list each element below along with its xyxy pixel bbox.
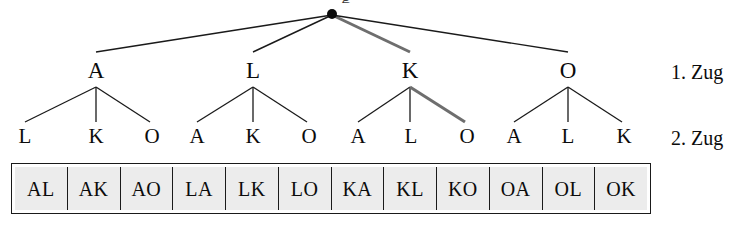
row-label-move-1: 1. Zug [671, 62, 723, 82]
outcome-cell: KA [332, 167, 385, 210]
edge-K-to-O [410, 87, 465, 122]
edge-A-to-L [25, 87, 96, 122]
edge-O-to-A [514, 87, 568, 122]
tree-node-level1-O: O [560, 59, 577, 82]
outcome-strip: AL AK AO LA LK LO KA KL KO OA OL OK [11, 163, 651, 214]
row-label-move-2: 2. Zug [671, 128, 723, 148]
outcome-cell: AL [15, 167, 68, 210]
tree-node-level2-4: K [245, 126, 260, 147]
outcome-cell: OA [490, 167, 543, 210]
tree-node-level1-L: L [246, 59, 260, 82]
edge-A-to-O [96, 87, 150, 122]
edge-root-to-O [332, 15, 568, 52]
edge-L-to-A [197, 87, 253, 122]
tree-node-level2-7: L [405, 126, 418, 147]
outcome-cell: LK [226, 167, 279, 210]
tree-node-level2-9: A [506, 126, 521, 147]
outcome-cell: KO [437, 167, 490, 210]
edge-root-to-A [96, 15, 332, 52]
tree-node-level2-3: A [189, 126, 204, 147]
outcome-cell: AK [68, 167, 121, 210]
tree-node-level1-K: K [402, 59, 419, 82]
root-node-dot [327, 9, 337, 19]
outcome-cell: OK [595, 167, 647, 210]
tree-node-level2-5: O [301, 126, 316, 147]
tree-node-level2-8: O [459, 126, 474, 147]
outcome-cell: OL [543, 167, 596, 210]
edge-L-to-O [253, 87, 307, 122]
outcome-cell: AO [121, 167, 174, 210]
edge-K-to-A [358, 87, 410, 122]
edge-O-to-K [568, 87, 622, 122]
game-tree-figure: g A L K O L K O A K O A L O A L [0, 0, 742, 226]
outcome-cell: KL [384, 167, 437, 210]
tree-node-level2-1: K [88, 126, 103, 147]
tree-node-level2-11: K [616, 126, 631, 147]
tree-node-level2-2: O [144, 126, 159, 147]
tree-node-level2-10: L [562, 126, 575, 147]
tree-node-level2-6: A [350, 126, 365, 147]
outcome-cell: LO [279, 167, 332, 210]
tree-node-level1-A: A [88, 59, 105, 82]
tree-node-level2-0: L [19, 126, 32, 147]
outcome-cell: LA [173, 167, 226, 210]
